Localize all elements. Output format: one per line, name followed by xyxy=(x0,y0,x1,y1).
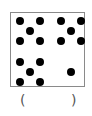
dot-icon xyxy=(77,17,85,25)
dot-icon xyxy=(26,27,34,35)
dot-icon xyxy=(16,58,24,66)
dot-icon xyxy=(16,78,24,86)
answer-open-paren: ( xyxy=(20,92,25,108)
dots-box xyxy=(10,12,85,87)
dot-icon xyxy=(36,17,44,25)
dot-icon xyxy=(67,68,75,76)
dot-icon xyxy=(57,17,65,25)
dot-icon xyxy=(36,58,44,66)
dot-icon xyxy=(67,27,75,35)
dot-icon xyxy=(36,37,44,45)
dot-icon xyxy=(26,68,34,76)
dot-counting-figure: ( ) xyxy=(0,0,92,116)
dot-icon xyxy=(36,78,44,86)
dot-icon xyxy=(57,37,65,45)
dot-icon xyxy=(77,37,85,45)
dot-icon xyxy=(16,37,24,45)
dot-icon xyxy=(16,17,24,25)
answer-close-paren: ) xyxy=(71,92,76,108)
